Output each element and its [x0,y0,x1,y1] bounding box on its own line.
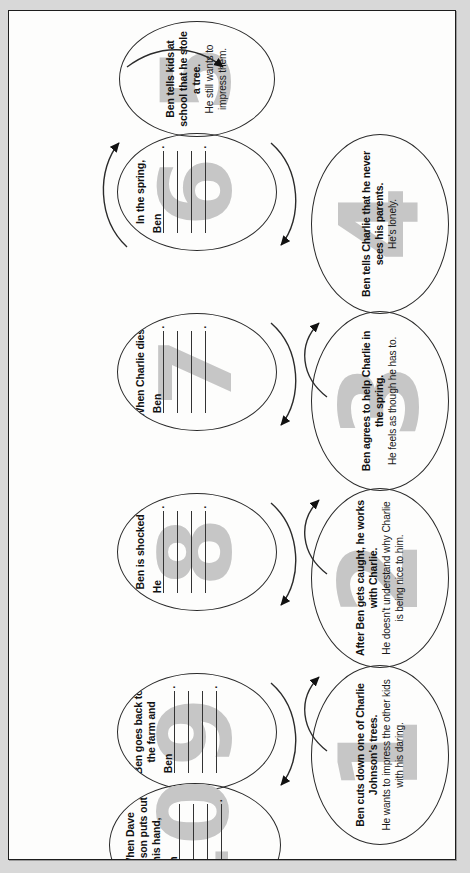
story-sequence-worksheet: 1 Ben cuts down one of Charlie Johnson's… [9,11,455,859]
node-3-lead: Ben agrees to help Charlie in the spring… [360,322,386,480]
story-node-1[interactable]: 1 Ben cuts down one of Charlie Johnson's… [311,665,449,845]
blank-prefill: He [152,577,163,593]
node-6-lead: In the spring, [134,160,147,224]
node-1-lead: Ben cuts down one of Charlie Johnson's t… [354,676,380,834]
node-4-sub: He's lonely. [387,199,400,249]
blank-line[interactable] [175,691,189,774]
blank-line[interactable] [192,331,206,414]
blank-prefill: Ben [168,853,179,860]
node-2-sub: He doesn't understand why Charlie is bei… [381,499,407,657]
blank-line: Ben [161,691,175,774]
story-node-10[interactable]: 10 When Dave Johnson puts out his hand, … [109,783,281,860]
blank-prefill: Ben [152,391,163,413]
story-node-4[interactable]: 4 Ben tells Charlie that he never sees h… [311,134,449,314]
node-2-lead: After Ben gets caught, he works with Cha… [354,499,380,657]
node-10-lead: When Dave Johnson puts out his hand, [124,794,163,860]
node-8-lead: Ben is shocked [134,515,147,590]
blank-line: He [150,511,164,594]
blank-line[interactable] [208,804,222,860]
blank-line[interactable] [178,151,192,234]
blank-line[interactable] [180,804,194,860]
story-node-7[interactable]: 7 When Charlie dies, Ben [117,313,277,431]
node-5-lead: Ben tells kids at school that he stole a… [164,30,203,128]
node-7-lead: When Charlie dies, [134,326,147,417]
node-1-sub: He wants to impress the other kids with … [381,676,407,834]
story-node-3[interactable]: 3 Ben agrees to help Charlie in the spri… [311,311,449,491]
blank-prefill: Ben [163,751,174,773]
blank-line: Ben [150,151,164,234]
node-7-blanks[interactable]: Ben [150,331,206,414]
node-9-blanks[interactable]: Ben [161,691,217,774]
blank-line[interactable] [164,511,178,594]
node-4-lead: Ben tells Charlie that he never sees his… [360,145,386,303]
blank-line: Ben [166,804,180,860]
blank-line[interactable] [178,331,192,414]
story-node-8[interactable]: 8 Ben is shocked He [117,493,277,611]
blank-line[interactable] [164,151,178,234]
scanned-page-sheet: 1 Ben cuts down one of Charlie Johnson's… [8,10,456,860]
node-6-blanks[interactable]: Ben [150,151,206,234]
blank-line[interactable] [194,804,208,860]
blank-prefill: Ben [152,211,163,233]
story-node-2[interactable]: 2 After Ben gets caught, he works with C… [311,488,449,668]
blank-line[interactable] [178,511,192,594]
node-10-blanks[interactable]: Ben [166,804,222,860]
story-node-9[interactable]: 9 Ben goes back to the farm and Ben [117,673,277,791]
blank-line: Ben [150,331,164,414]
blank-line[interactable] [189,691,203,774]
blank-line[interactable] [192,151,206,234]
node-8-blanks[interactable]: He [150,511,206,594]
node-3-sub: He feels as though he has to. [387,337,400,465]
story-node-5[interactable]: 5 Ben tells kids at school that he stole… [119,21,275,137]
blank-line[interactable] [164,331,178,414]
blank-line[interactable] [203,691,217,774]
blank-line[interactable] [192,511,206,594]
node-9-lead: Ben goes back to the farm and [132,684,158,780]
story-node-6[interactable]: 6 In the spring, Ben [117,133,277,251]
node-5-sub: He still wants to impress them. [204,30,230,128]
